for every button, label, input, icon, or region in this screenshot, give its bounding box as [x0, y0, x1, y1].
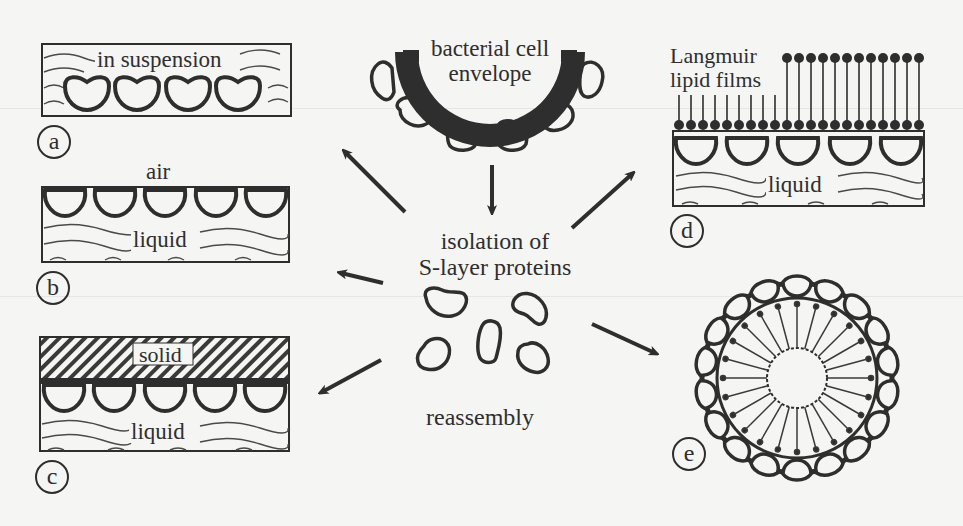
isolation-label-line1: isolation of: [400, 228, 590, 254]
panel-b-liquid-label: liquid: [131, 228, 189, 251]
panel-e-graphic: [694, 276, 900, 480]
panel-c-solid-label: solid: [139, 344, 182, 366]
panel-a-badge-text: a: [49, 128, 60, 154]
panel-d-top-label-line1: Langmuir: [670, 44, 761, 68]
panel-d-top-label-line2: lipid films: [670, 68, 761, 92]
cell-envelope-label-line1: bacterial cell: [420, 36, 560, 61]
isolation-label: isolation of S-layer proteins: [400, 228, 590, 281]
reassembly-label: reassembly: [426, 405, 534, 429]
isolation-label-line2: S-layer proteins: [400, 254, 590, 280]
panel-d-badge-text: d: [681, 217, 693, 243]
panel-b-badge: b: [36, 271, 70, 305]
panel-c-badge-text: c: [47, 463, 58, 489]
cell-envelope-label: bacterial cell envelope: [420, 36, 560, 87]
cell-envelope-label-line2: envelope: [420, 61, 560, 86]
panel-d-liquid-label: liquid: [766, 173, 824, 196]
figure-s-layer-reassembly: in suspension a air liquid b solid liqui…: [0, 0, 963, 526]
panel-a-badge: a: [37, 125, 71, 159]
panel-a-label: in suspension: [95, 48, 224, 71]
panel-c-liquid-label: liquid: [129, 420, 187, 443]
panel-b-top-label: air: [146, 160, 170, 183]
panel-c-badge: c: [35, 460, 69, 494]
panel-e-badge: e: [672, 437, 706, 471]
panel-d-top-label: Langmuir lipid films: [670, 44, 761, 92]
panel-b-badge-text: b: [47, 274, 59, 300]
isolated-proteins: [417, 288, 548, 372]
panel-d-badge: d: [670, 214, 704, 248]
panel-e-badge-text: e: [684, 440, 695, 466]
